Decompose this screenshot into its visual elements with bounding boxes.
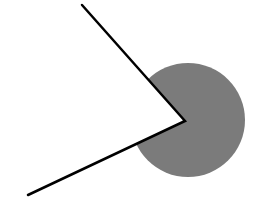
angle-wedge-cutout [0,0,185,200]
angle-circle-diagram [0,0,263,200]
